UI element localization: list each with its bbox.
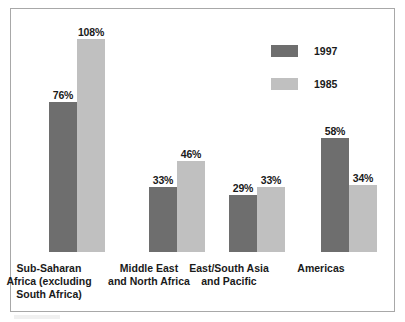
category-label-middle-east-north-africa: Middle East and North Africa	[108, 262, 190, 288]
bar-value-label: 76%	[53, 89, 73, 101]
bar-value-label: 29%	[233, 182, 253, 194]
bars-container: 58% 34%	[321, 138, 377, 252]
bars-container: 29% 33%	[229, 187, 285, 252]
bar-wrap-1985: 33%	[257, 187, 285, 252]
bar-value-label: 46%	[181, 148, 201, 160]
category-label-sub-saharan-africa: Sub-Saharan Africa (excluding South Afri…	[6, 262, 91, 301]
bar-1997[interactable]	[321, 138, 349, 252]
bar-value-label: 58%	[325, 125, 345, 137]
legend-item-1985[interactable]: 1985	[271, 74, 337, 94]
category-label-americas: Americas	[297, 262, 344, 275]
legend-label: 1985	[314, 78, 337, 90]
chart-legend: 1997 1985	[271, 41, 337, 107]
bars-container: 76% 108%	[49, 39, 105, 252]
category-label-line: Africa (excluding	[6, 275, 91, 288]
bar-1997[interactable]	[149, 187, 177, 252]
bar-wrap-1997: 76%	[49, 102, 77, 252]
category-label-line: Sub-Saharan	[6, 262, 91, 275]
bar-value-label: 108%	[78, 26, 104, 38]
bar-wrap-1997: 29%	[229, 195, 257, 252]
category-label-line: East/South Asia	[189, 262, 269, 275]
category-label-line: and Pacific	[189, 275, 269, 288]
bar-wrap-1985: 34%	[349, 185, 377, 252]
category-label-line: and North Africa	[108, 275, 190, 288]
bar-wrap-1985: 108%	[77, 39, 105, 252]
bar-wrap-1997: 58%	[321, 138, 349, 252]
chart-frame: 76% 108% Sub-Saharan Africa (excluding S…	[10, 8, 395, 312]
bars-container: 33% 46%	[149, 161, 205, 252]
bar-1997[interactable]	[49, 102, 77, 252]
legend-item-1997[interactable]: 1997	[271, 41, 337, 61]
bar-1985[interactable]	[177, 161, 205, 252]
category-label-line: South Africa)	[6, 288, 91, 301]
bar-1985[interactable]	[349, 185, 377, 252]
scan-artifact	[14, 315, 60, 319]
category-label-line: Americas	[297, 262, 344, 275]
bar-wrap-1997: 33%	[149, 187, 177, 252]
plot-area: 76% 108% Sub-Saharan Africa (excluding S…	[11, 9, 394, 311]
bar-value-label: 33%	[261, 174, 281, 186]
bar-1997[interactable]	[229, 195, 257, 252]
category-label-line: Middle East	[108, 262, 190, 275]
bar-1985[interactable]	[77, 39, 105, 252]
bar-1985[interactable]	[257, 187, 285, 252]
bar-value-label: 34%	[353, 172, 373, 184]
bar-value-label: 33%	[153, 174, 173, 186]
legend-swatch-icon	[271, 78, 298, 90]
category-label-east-south-asia-pacific: East/South Asia and Pacific	[189, 262, 269, 288]
bar-wrap-1985: 46%	[177, 161, 205, 252]
legend-swatch-icon	[271, 45, 298, 57]
chart-figure: 76% 108% Sub-Saharan Africa (excluding S…	[0, 0, 405, 322]
legend-label: 1997	[314, 45, 337, 57]
